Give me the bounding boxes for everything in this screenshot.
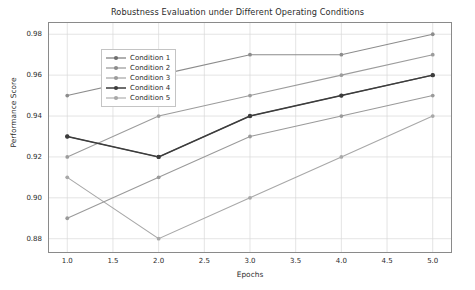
y-tick-label: 0.90 — [26, 194, 42, 202]
data-point-marker — [339, 155, 343, 159]
data-point-marker — [339, 73, 343, 77]
data-point-marker — [65, 94, 69, 98]
data-point-marker — [157, 114, 161, 118]
y-tick-label: 0.94 — [26, 112, 42, 120]
chart-legend: Condition 1Condition 2Condition 3Conditi… — [101, 49, 176, 107]
x-axis-label: Epochs — [48, 270, 452, 279]
x-axis-tick-labels: 1.01.52.02.53.03.54.04.55.0 — [48, 257, 452, 269]
legend-item[interactable]: Condition 2 — [105, 63, 170, 73]
x-tick-label: 2.0 — [153, 257, 164, 265]
data-point-marker — [65, 134, 69, 138]
chart-title: Robustness Evaluation under Different Op… — [0, 7, 475, 17]
legend-line-icon — [105, 93, 127, 103]
y-tick-label: 0.98 — [26, 30, 42, 38]
x-tick-label: 4.0 — [336, 257, 347, 265]
plot-area: Condition 1Condition 2Condition 3Conditi… — [48, 22, 452, 253]
data-point-marker — [431, 32, 435, 36]
data-point-marker — [339, 93, 343, 97]
data-point-marker — [248, 114, 252, 118]
legend-line-icon — [105, 83, 127, 93]
legend-item-label: Condition 5 — [127, 94, 170, 102]
legend-item-label: Condition 4 — [127, 84, 170, 92]
x-tick-label: 3.5 — [290, 257, 301, 265]
data-point-marker — [431, 73, 435, 77]
data-point-marker — [248, 135, 252, 139]
x-tick-label: 1.0 — [62, 257, 73, 265]
data-point-marker — [431, 94, 435, 98]
data-point-marker — [248, 196, 252, 200]
legend-line-icon — [105, 63, 127, 73]
data-point-marker — [339, 114, 343, 118]
y-tick-label: 0.92 — [26, 153, 42, 161]
y-tick-label: 0.88 — [26, 235, 42, 243]
x-tick-label: 1.5 — [107, 257, 118, 265]
legend-line-icon — [105, 73, 127, 83]
data-point-marker — [65, 155, 69, 159]
y-tick-label: 0.96 — [26, 71, 42, 79]
legend-line-icon — [105, 53, 127, 63]
data-point-marker — [65, 175, 69, 179]
chart-figure: Robustness Evaluation under Different Op… — [0, 0, 475, 290]
x-tick-label: 2.5 — [199, 257, 210, 265]
legend-item[interactable]: Condition 5 — [105, 93, 170, 103]
legend-item[interactable]: Condition 3 — [105, 73, 170, 83]
data-point-marker — [157, 237, 161, 241]
data-point-marker — [65, 216, 69, 220]
data-point-marker — [431, 114, 435, 118]
data-point-marker — [156, 155, 160, 159]
data-point-marker — [431, 53, 435, 57]
x-tick-label: 5.0 — [427, 257, 438, 265]
legend-item-label: Condition 2 — [127, 64, 170, 72]
x-tick-label: 4.5 — [381, 257, 392, 265]
data-point-marker — [339, 53, 343, 57]
legend-item[interactable]: Condition 1 — [105, 53, 170, 63]
y-axis-tick-labels: 0.880.900.920.940.960.98 — [8, 22, 42, 253]
data-point-marker — [248, 53, 252, 57]
data-point-marker — [248, 94, 252, 98]
data-point-marker — [157, 175, 161, 179]
legend-item-label: Condition 3 — [127, 74, 170, 82]
x-tick-label: 3.0 — [244, 257, 255, 265]
legend-item-label: Condition 1 — [127, 54, 170, 62]
legend-item[interactable]: Condition 4 — [105, 83, 170, 93]
